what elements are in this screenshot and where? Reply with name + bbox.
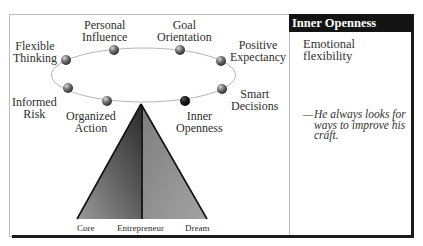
label-line: Expectancy [230,51,286,63]
sphere-personal-influence [109,45,119,55]
quote-dash: — [303,109,313,120]
sphere-informed-risk [63,83,73,93]
sphere-organized-action [102,96,112,106]
label-line: Action [66,122,116,134]
panel-quote: — He always looks for ways to improve hi… [303,109,408,141]
panel-subtitle: Emotional flexibility [303,38,403,62]
sphere-flexible-thinking [61,55,71,65]
label-line: Decisions [231,100,278,112]
label-line: Thinking [13,52,57,64]
quote-text: He always looks for ways to improve his … [303,109,408,141]
label-goal-orientation: Goal Orientation [157,19,212,43]
label-flexible-thinking: Flexible Thinking [13,40,57,64]
pyramid-label-entrepreneur: Entrepreneur [117,223,164,233]
label-smart-decisions: Smart Decisions [231,88,278,112]
label-personal-influence: Personal Influence [82,19,127,43]
panel-title: Inner Openness [289,14,413,32]
sphere-inner-openness [180,96,190,106]
pyramid-label-dream: Dream [185,223,210,233]
sphere-goal-orientation [175,45,185,55]
cycle-ring [52,48,236,102]
label-organized-action: Organized Action [66,110,116,134]
label-line: Openness [176,122,223,134]
label-inner-openness: Inner Openness [176,110,223,134]
sphere-positive-expectancy [216,56,226,66]
label-informed-risk: Informed Risk [12,96,57,120]
label-line: Risk [12,108,57,120]
label-line: Influence [82,31,127,43]
label-positive-expectancy: Positive Expectancy [230,39,286,63]
sphere-smart-decisions [217,84,227,94]
label-line: Orientation [157,31,212,43]
pyramid-label-core: Core [77,223,95,233]
